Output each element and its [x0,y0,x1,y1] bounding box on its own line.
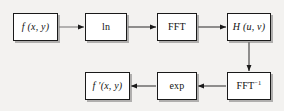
node-transfer-function[interactable]: H (u, v) [227,13,271,41]
node-label-inverse-fft: FFT−1 [236,81,261,91]
node-label-exp: exp [169,81,184,91]
node-label-fft: FFT [168,22,186,32]
node-inverse-fft[interactable]: FFT−1 [227,72,271,100]
node-label-input-image: f (x, y) [22,22,49,32]
flow-diagram: f (x, y) ln FFT H (u, v) FFT−1 exp f ′(x… [0,0,284,111]
node-label-transfer-function: H (u, v) [233,22,265,32]
node-ln[interactable]: ln [85,13,127,41]
node-label-output-image: f ′(x, y) [93,81,123,91]
node-label-inverse-fft-base: FFT [236,80,254,91]
node-output-image[interactable]: f ′(x, y) [85,72,130,100]
node-exp[interactable]: exp [157,72,197,100]
node-label-inverse-fft-exponent: −1 [254,79,261,86]
node-fft[interactable]: FFT [157,13,197,41]
node-input-image[interactable]: f (x, y) [13,13,58,41]
node-label-ln: ln [102,22,110,32]
